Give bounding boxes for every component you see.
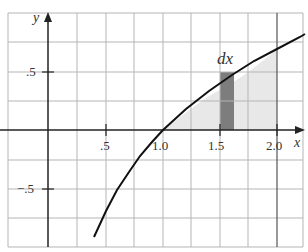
x-tick-label-0.5: .5 xyxy=(100,138,110,153)
x-axis-label: x xyxy=(293,135,301,150)
x-tick-label-2.0: 2.0 xyxy=(266,138,282,153)
dx-label: dx xyxy=(217,49,234,68)
x-tick-label-1.0: 1.0 xyxy=(152,138,168,153)
chart: y x dx .5 1.0 1.5 2.0 .5 −.5 xyxy=(0,0,308,252)
axes xyxy=(0,20,298,247)
x-tick-label-1.5: 1.5 xyxy=(208,138,224,153)
y-tick-label-neg-0.5: −.5 xyxy=(17,181,34,196)
y-tick-label-0.5: .5 xyxy=(26,64,36,79)
y-axis-label: y xyxy=(31,10,40,25)
